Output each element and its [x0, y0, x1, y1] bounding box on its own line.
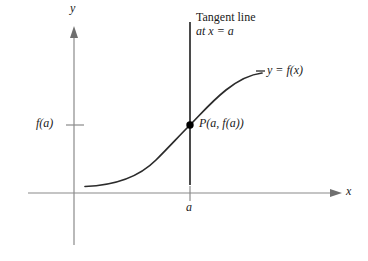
tangent-line-annotation: Tangent line at x = a [196, 11, 255, 39]
x-tick-label-a: a [186, 201, 192, 215]
point-p-marker [186, 121, 193, 128]
tangent-line-annotation-line2: at x = a [196, 25, 255, 39]
y-axis-arrowhead [70, 26, 78, 38]
curve-function-label: y = f(x) [267, 64, 303, 78]
x-axis-label: x [346, 185, 351, 199]
figure-canvas [0, 0, 368, 261]
tangent-line-annotation-line1: Tangent line [196, 10, 255, 24]
y-tick-label-f-of-a: f(a) [36, 117, 53, 131]
y-axis-label: y [70, 2, 75, 16]
point-p-label: P(a, f(a)) [199, 117, 244, 131]
x-axis-arrowhead [330, 189, 342, 197]
tangent-line-figure: y x f(a) a P(a, f(a)) y = f(x) Tangent l… [0, 0, 368, 261]
